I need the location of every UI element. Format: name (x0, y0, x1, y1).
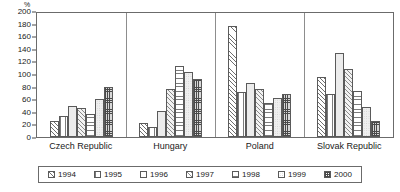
legend-item[interactable]: 1997 (186, 170, 214, 179)
bar (353, 91, 362, 137)
legend-label: 1997 (196, 170, 214, 179)
bar (157, 111, 166, 137)
chart-legend: 1994199519961997199819992000 (38, 166, 362, 183)
y-axis-tick-label: 40 (22, 109, 31, 117)
y-axis-tick-label: 80 (22, 84, 31, 92)
bar-group (37, 13, 126, 137)
legend-swatch-icon (48, 171, 55, 178)
bar (139, 123, 148, 137)
legend-swatch-icon (94, 171, 101, 178)
bar (193, 79, 202, 137)
y-axis-tick-label: 200 (18, 8, 31, 16)
y-axis-tick-label: 120 (18, 58, 31, 66)
legend-swatch-icon (186, 171, 193, 178)
bar (50, 121, 59, 137)
y-axis-tick-label: 60 (22, 96, 31, 104)
bar (362, 107, 371, 137)
bar (104, 87, 113, 137)
x-axis-label: Czech Republic (36, 140, 126, 154)
legend-swatch-icon (324, 171, 331, 178)
bar (344, 69, 353, 137)
bar-chart: % 200180160140120100806040200 Czech Repu… (0, 0, 400, 192)
legend-label: 1998 (242, 170, 260, 179)
bar (59, 116, 68, 137)
bar (335, 53, 344, 137)
legend-item[interactable]: 1994 (48, 170, 76, 179)
bar (184, 72, 193, 137)
legend-item[interactable]: 1996 (140, 170, 168, 179)
y-axis-tick-label: 140 (18, 46, 31, 54)
y-axis: 200180160140120100806040200 (0, 12, 36, 138)
bar (282, 94, 291, 137)
x-axis-label: Hungary (126, 140, 216, 154)
bar (228, 26, 237, 137)
y-axis-tick-label: 20 (22, 121, 31, 129)
bar-group (304, 13, 393, 137)
bar-groups-container (37, 13, 393, 137)
bar (246, 83, 255, 137)
bar (264, 103, 273, 137)
bar (326, 94, 335, 137)
bar (148, 127, 157, 137)
legend-swatch-icon (232, 171, 239, 178)
legend-label: 2000 (334, 170, 352, 179)
y-axis-tick-label: 160 (18, 33, 31, 41)
bar (237, 92, 246, 137)
legend-label: 1996 (150, 170, 168, 179)
legend-label: 1994 (58, 170, 76, 179)
y-axis-tick-label: 100 (18, 71, 31, 79)
legend-swatch-icon (278, 171, 285, 178)
legend-item[interactable]: 1999 (278, 170, 306, 179)
bar-group (126, 13, 215, 137)
legend-item[interactable]: 1995 (94, 170, 122, 179)
legend-swatch-icon (140, 171, 147, 178)
bar (371, 121, 380, 137)
x-axis-label: Poland (215, 140, 305, 154)
bar (95, 99, 104, 137)
y-axis-tick-label: 180 (18, 21, 31, 29)
bar (273, 98, 282, 137)
bar-group (215, 13, 304, 137)
bar (317, 77, 326, 137)
bar (77, 108, 86, 137)
bar (166, 89, 175, 137)
legend-item[interactable]: 1998 (232, 170, 260, 179)
x-axis-category-labels: Czech RepublicHungaryPolandSlovak Republ… (36, 140, 394, 154)
bar (86, 114, 95, 137)
bar (68, 106, 77, 137)
plot-area (36, 12, 394, 138)
legend-label: 1995 (104, 170, 122, 179)
y-axis-tick-label: 0 (27, 134, 31, 142)
legend-label: 1999 (288, 170, 306, 179)
bar (255, 89, 264, 138)
bar (175, 66, 184, 137)
x-axis-label: Slovak Republic (305, 140, 395, 154)
legend-item[interactable]: 2000 (324, 170, 352, 179)
